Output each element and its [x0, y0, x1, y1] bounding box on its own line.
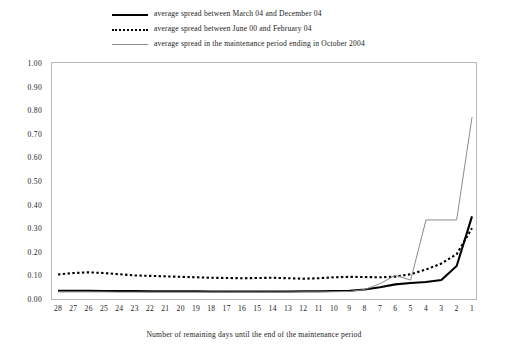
legend-item-june00-february04: average spread between June 00 and Febru…	[112, 21, 412, 36]
x-axis-tick-label: 14	[269, 304, 277, 313]
legend-swatch-dotted-black-icon	[112, 24, 148, 34]
legend-label: average spread between June 00 and Febru…	[154, 24, 312, 33]
x-axis: 2827262524232221201918171615141312111098…	[51, 304, 477, 318]
y-axis-tick-label: 0.20	[28, 247, 43, 256]
x-axis-tick-label: 6	[393, 304, 397, 313]
x-axis-tick-label: 17	[223, 304, 231, 313]
x-axis-tick-label: 24	[115, 304, 123, 313]
y-axis-tick-label: 0.10	[28, 271, 43, 280]
x-axis-tick-label: 5	[409, 304, 413, 313]
legend-swatch-solid-gray-icon	[112, 39, 148, 49]
x-axis-tick-label: 19	[192, 304, 200, 313]
y-axis-tick-label: 0.80	[28, 106, 43, 115]
x-axis-tick-label: 9	[347, 304, 351, 313]
y-axis-tick-label: 1.00	[28, 59, 43, 68]
x-axis-tick-label: 23	[131, 304, 139, 313]
legend-label: average spread in the maintenance period…	[154, 39, 365, 48]
x-axis-tick-label: 25	[100, 304, 108, 313]
series-line-2	[58, 117, 472, 292]
x-axis-tick-label: 1	[470, 304, 474, 313]
x-axis-tick-label: 16	[238, 304, 246, 313]
x-axis-tick-label: 22	[146, 304, 154, 313]
x-axis-tick-label: 12	[299, 304, 307, 313]
y-axis-tick-label: 0.60	[28, 153, 43, 162]
x-axis-tick-label: 15	[253, 304, 261, 313]
x-axis-tick-label: 13	[284, 304, 292, 313]
x-axis-tick-label: 10	[330, 304, 338, 313]
series-line-1	[58, 228, 472, 279]
y-axis: 0.000.100.200.300.400.500.600.700.800.90…	[0, 62, 46, 300]
y-axis-tick-label: 0.40	[28, 200, 43, 209]
y-axis-tick-label: 0.50	[28, 177, 43, 186]
x-axis-tick-label: 28	[54, 304, 62, 313]
x-axis-tick-label: 8	[363, 304, 367, 313]
y-axis-tick-label: 0.00	[28, 295, 43, 304]
plot-svg	[52, 63, 476, 299]
y-axis-tick-label: 0.70	[28, 129, 43, 138]
y-axis-tick-label: 0.90	[28, 82, 43, 91]
x-axis-tick-label: 4	[424, 304, 428, 313]
legend-item-march04-december04: average spread between March 04 and Dece…	[112, 6, 412, 21]
x-axis-tick-label: 26	[85, 304, 93, 313]
x-axis-tick-label: 27	[69, 304, 77, 313]
x-axis-tick-label: 11	[315, 304, 323, 313]
chart-figure: average spread between March 04 and Dece…	[0, 0, 508, 356]
x-axis-tick-label: 3	[439, 304, 443, 313]
x-axis-tick-label: 20	[177, 304, 185, 313]
plot-area	[51, 62, 477, 300]
legend-item-october2004-period: average spread in the maintenance period…	[112, 36, 412, 51]
legend-label: average spread between March 04 and Dece…	[154, 9, 322, 18]
legend-swatch-solid-black-icon	[112, 9, 148, 19]
chart-legend: average spread between March 04 and Dece…	[112, 6, 412, 51]
x-axis-tick-label: 2	[455, 304, 459, 313]
x-axis-tick-label: 21	[161, 304, 169, 313]
y-axis-tick-label: 0.30	[28, 224, 43, 233]
x-axis-title: Number of remaining days until the end o…	[0, 330, 508, 339]
x-axis-tick-label: 18	[207, 304, 215, 313]
x-axis-tick-label: 7	[378, 304, 382, 313]
